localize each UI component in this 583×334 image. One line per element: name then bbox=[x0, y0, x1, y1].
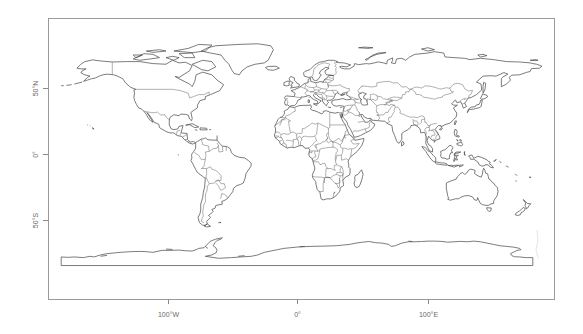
plot-frame bbox=[49, 19, 555, 300]
south-america-outline bbox=[191, 138, 251, 225]
madagascar-outline bbox=[354, 170, 363, 188]
y-tick-label-50n: 50°N bbox=[32, 81, 39, 97]
north-america-outline bbox=[77, 60, 224, 144]
x-tick-label-100w: 100°W bbox=[158, 311, 179, 318]
south-america-borders bbox=[194, 139, 227, 223]
margin-smudge bbox=[536, 230, 538, 258]
y-axis: 50°N 0° 50°S bbox=[32, 81, 48, 228]
new-zealand-outline bbox=[515, 200, 531, 216]
arctic-archipelago bbox=[133, 44, 216, 70]
russian-arctic-islands bbox=[359, 47, 538, 60]
antarctic-ice-shelves bbox=[101, 241, 413, 256]
antarctica-outline bbox=[61, 238, 533, 266]
eurasia-borders bbox=[286, 63, 472, 141]
x-tick-label-0: 0° bbox=[294, 311, 301, 318]
iceland-outline bbox=[266, 66, 280, 70]
y-tick-label-50s: 50°S bbox=[32, 213, 39, 229]
map-land bbox=[61, 44, 542, 266]
aleutian-islands bbox=[61, 82, 82, 86]
tierra-del-fuego bbox=[204, 222, 221, 227]
tasmania-outline bbox=[487, 208, 492, 212]
y-tick-label-0: 0° bbox=[32, 151, 39, 158]
japan-outline bbox=[402, 82, 488, 146]
north-america-borders bbox=[112, 62, 209, 143]
greenland-outline bbox=[201, 44, 273, 75]
x-tick-label-100e: 100°E bbox=[419, 311, 438, 318]
caspian-sea-outline bbox=[359, 92, 368, 105]
x-axis: 100°W 0° 100°E bbox=[158, 299, 438, 318]
australia-outline bbox=[446, 168, 498, 205]
eurasia-outline bbox=[285, 52, 542, 152]
world-map-figure: 50°N 0° 50°S 100°W 0° 100°E bbox=[0, 0, 583, 334]
british-isles-outline bbox=[284, 77, 299, 88]
caribbean-islands bbox=[186, 124, 217, 141]
